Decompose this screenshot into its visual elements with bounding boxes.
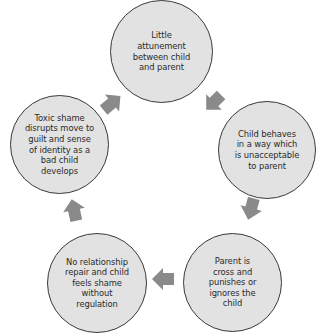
node-no-repair: No relationship repair and child feels s… [47, 233, 147, 333]
node-parent-cross: Parent is cross and punishes or ignores … [183, 233, 282, 332]
node-label: Child behaves in a way which is unaccept… [235, 129, 300, 171]
node-label: No relationship repair and child feels s… [65, 257, 129, 310]
node-label: Little attunement between child and pare… [133, 30, 190, 72]
node-child-behaves: Child behaves in a way which is unaccept… [218, 101, 316, 199]
node-label: Parent is cross and punishes or ignores … [209, 256, 257, 309]
arrow-up-icon [62, 198, 86, 222]
node-toxic-shame: Toxic shame disrupts move to guilt and s… [10, 95, 109, 194]
shame-cycle-diagram: Little attunement between child and pare… [0, 0, 324, 333]
arrow-down-right-icon [202, 90, 226, 114]
arrow-left-icon [151, 267, 175, 291]
arrow-down-icon [239, 197, 263, 221]
node-label: Toxic shame disrupts move to guilt and s… [25, 113, 94, 177]
arrow-up-right-icon [100, 91, 124, 115]
node-little-attunement: Little attunement between child and pare… [110, 0, 213, 103]
